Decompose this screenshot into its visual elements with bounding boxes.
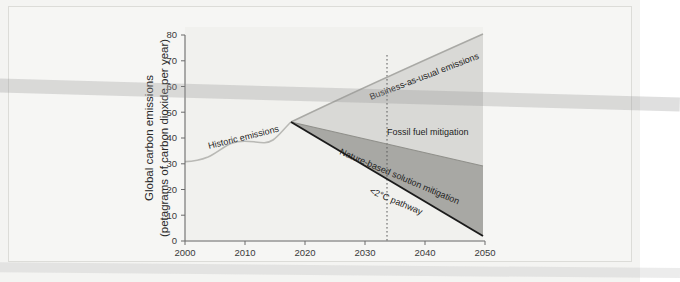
y-tick-label-80: 80 xyxy=(166,29,177,40)
x-tick-label-2040: 2040 xyxy=(414,247,435,258)
y-axis-ticks xyxy=(181,35,185,241)
annotation-fossil-fuel-mitigation: Fossil fuel mitigation xyxy=(387,127,469,137)
x-tick-label-2050: 2050 xyxy=(474,247,495,258)
x-tick-label-2030: 2030 xyxy=(354,247,375,258)
y-axis-title-line2: (petagrams of carbon dioxide per year) xyxy=(158,39,170,237)
x-tick-label-2000: 2000 xyxy=(174,247,195,258)
carbon-emissions-chart: 0 10 20 30 40 50 60 70 80 2000 2010 2020… xyxy=(9,7,633,263)
x-tick-label-2020: 2020 xyxy=(294,247,315,258)
y-tick-label-0: 0 xyxy=(172,235,177,246)
scan-artifact-band-lower xyxy=(0,262,680,278)
chart-panel: 0 10 20 30 40 50 60 70 80 2000 2010 2020… xyxy=(8,6,632,262)
x-tick-label-2010: 2010 xyxy=(234,247,255,258)
y-axis-title-line1: Global carbon emissions xyxy=(143,75,155,201)
